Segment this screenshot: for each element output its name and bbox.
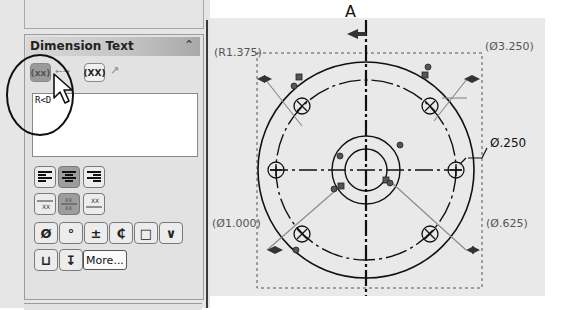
svg-text:XX: XX [42, 203, 50, 210]
degree-symbol-button[interactable]: ° [59, 222, 83, 244]
offset-text-button[interactable]: ↗ [110, 64, 119, 77]
property-manager-panel: Dimension Text ⌃ (xx) ←→ (XX) ↗ R<D XX X… [0, 0, 210, 308]
drawing-canvas[interactable]: A (R1.375) (Ø3.250) Ø.250 (Ø1.000) (Ø.62… [210, 18, 545, 296]
inner-diameter-value: Ø.625 [490, 217, 523, 230]
bolt-circle-dimension[interactable]: (Ø1.000) [212, 217, 261, 230]
more-symbols-button[interactable]: More... [83, 250, 127, 270]
text-below-icon: XX [86, 197, 102, 211]
collapse-icon[interactable]: ⌃ [184, 38, 194, 52]
slope-symbol-button[interactable]: ∨ [159, 222, 183, 244]
section-view-label[interactable]: A [345, 2, 356, 21]
svg-text:XX: XX [65, 205, 72, 211]
text-below-button[interactable]: XX [83, 193, 105, 215]
centerline-symbol-button[interactable]: ₵ [109, 222, 133, 244]
hole-diameter-dimension[interactable]: Ø.250 [490, 136, 526, 150]
justify-center-button[interactable] [58, 166, 80, 188]
plus-minus-symbol-button[interactable]: ± [84, 222, 108, 244]
align-right-icon [87, 171, 101, 183]
panel-lower-section [24, 303, 202, 310]
offset-text-icon: ↗ [110, 64, 119, 77]
square-symbol-button[interactable]: □ [134, 222, 158, 244]
top-strip [210, 0, 561, 18]
counterbore-icon: ⊔ [41, 253, 51, 268]
text-middle-icon: XXXX [61, 197, 77, 211]
depth-icon: ↧ [66, 253, 77, 268]
inspection-icon: (XX) [83, 68, 105, 78]
mouse-pointer-icon [52, 72, 78, 106]
chevron-down-icon: ∨ [166, 226, 177, 241]
degree-icon: ° [68, 226, 75, 241]
bolt-circle-value: Ø1.000 [216, 217, 256, 230]
radius-dimension[interactable]: (R1.375) [214, 46, 262, 59]
inspection-dimension-button[interactable]: (XX) [84, 63, 105, 82]
counterbore-symbol-button[interactable]: ⊔ [34, 249, 58, 271]
depth-symbol-button[interactable]: ↧ [59, 249, 83, 271]
justify-right-button[interactable] [83, 166, 105, 188]
radius-dimension-value: R1.375 [218, 46, 257, 59]
text-middle-button[interactable]: XXXX [58, 193, 80, 215]
outer-diameter-value: Ø3.250 [489, 40, 529, 53]
align-left-icon [38, 171, 52, 183]
inner-diameter-dimension[interactable]: (Ø.625) [486, 217, 528, 230]
svg-text:XX: XX [91, 197, 99, 204]
square-icon: □ [140, 226, 152, 241]
diameter-symbol-button[interactable]: Ø [34, 222, 58, 244]
drawing-view [210, 18, 545, 296]
diameter-icon: Ø [40, 226, 51, 241]
plus-minus-icon: ± [91, 226, 102, 241]
svg-text:XX: XX [65, 197, 72, 203]
justify-left-button[interactable] [34, 166, 56, 188]
align-center-icon [62, 171, 76, 183]
panel-splitter[interactable] [206, 20, 208, 308]
outer-diameter-dimension[interactable]: (Ø3.250) [485, 40, 534, 53]
panel-upper-section [24, 0, 204, 29]
centerline-icon: ₵ [116, 226, 125, 241]
text-above-button[interactable]: XX [34, 193, 56, 215]
text-above-icon: XX [37, 197, 53, 211]
